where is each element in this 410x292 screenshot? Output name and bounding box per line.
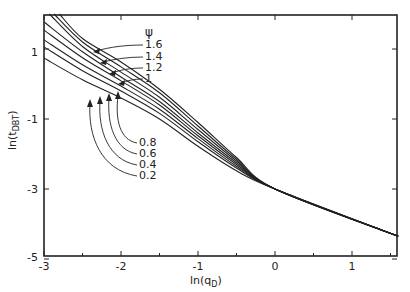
curves <box>44 14 398 236</box>
arrow-0.2-head <box>87 99 93 107</box>
y-tick-label: -3 <box>27 183 38 196</box>
curve-psi-1.4 <box>54 14 398 236</box>
curve-psi-0.2 <box>44 58 398 236</box>
arrow-0.8 <box>117 96 137 143</box>
x-tick-label: 1 <box>349 260 356 273</box>
arrow-1.6-head <box>93 48 100 54</box>
chart-container: ψ 1.6 1.4 1.2 1 0.8 0.6 0.4 0.2 -3 -2 -1… <box>0 0 410 292</box>
x-tick-label: 0 <box>272 260 279 273</box>
y-tick-labels: -5 -3 -1 1 <box>27 46 38 264</box>
curve-psi-0.6 <box>44 40 398 236</box>
x-tick-labels: -3 -2 -1 0 1 <box>39 260 356 273</box>
arrow-0.4-head <box>97 96 103 104</box>
arrow-0.6 <box>109 98 137 154</box>
legend-title-psi: ψ <box>145 25 153 39</box>
arrow-1.6 <box>96 45 143 51</box>
x-tick-label: -1 <box>193 260 204 273</box>
curve-psi-1.2 <box>49 14 398 236</box>
curve-psi-0.8 <box>44 30 398 236</box>
curve-psi-1 <box>44 22 398 236</box>
arrow-1.2-head <box>109 70 116 76</box>
x-tick-label: -2 <box>116 260 127 273</box>
x-axis-label: ln(qD) <box>190 274 222 289</box>
curve-label-1: 1 <box>145 72 152 85</box>
curve-psi-0.4 <box>44 47 398 236</box>
arrow-0.4 <box>100 101 137 165</box>
y-axis-label: ln(tDBT) <box>6 111 21 150</box>
y-tick-label: -5 <box>27 251 38 264</box>
arrow-0.6-head <box>106 93 112 101</box>
y-tick-label: 1 <box>31 46 38 59</box>
y-tick-label: -1 <box>27 113 38 126</box>
chart-svg: ψ 1.6 1.4 1.2 1 0.8 0.6 0.4 0.2 -3 -2 -1… <box>0 0 410 292</box>
curve-label-arrows <box>87 45 143 176</box>
x-tick-label: -3 <box>39 260 50 273</box>
curve-label-0.2: 0.2 <box>139 169 157 182</box>
